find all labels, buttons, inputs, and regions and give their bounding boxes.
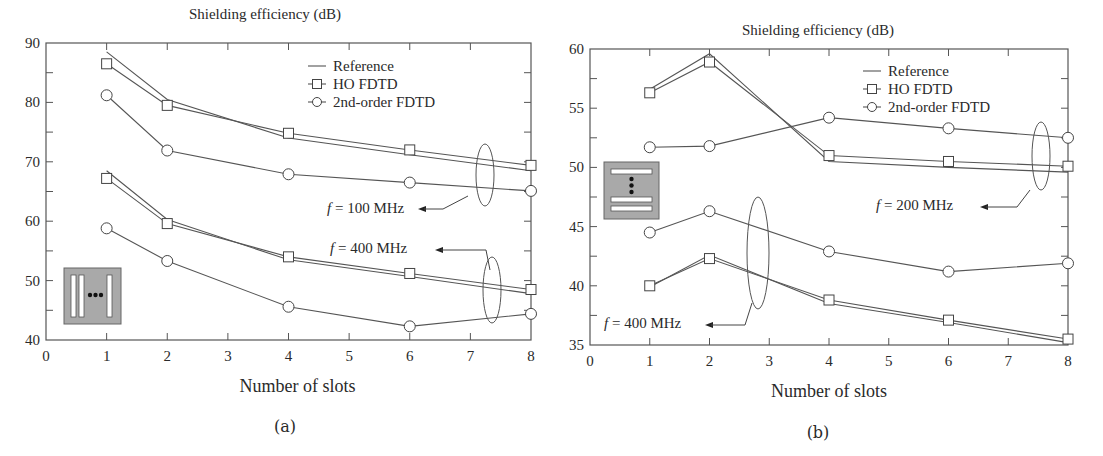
- y-tick-label: 45: [569, 219, 584, 235]
- series-2nd-order-fdtd: [644, 206, 1073, 277]
- circle-marker: [943, 266, 954, 277]
- x-tick-label: 2: [164, 348, 172, 364]
- square-marker: [526, 285, 536, 295]
- circle-marker: [526, 185, 537, 196]
- series-reference: [650, 54, 1068, 172]
- x-tick-label: 0: [586, 353, 594, 369]
- grouping-ellipse: [483, 257, 501, 323]
- circle-marker: [824, 246, 835, 257]
- legend-entry: Reference: [888, 63, 949, 79]
- grouping-ellipse: [747, 197, 769, 309]
- horizontal-slots-inset-icon: [604, 162, 659, 219]
- square-marker: [645, 281, 655, 291]
- legend-entry: HO FDTD: [333, 76, 398, 92]
- square-marker: [405, 145, 415, 155]
- frequency-annotation: f = 400 MHz: [330, 240, 501, 323]
- x-tick-label: 3: [766, 353, 774, 369]
- circle-marker: [1063, 132, 1074, 143]
- circle-marker: [404, 321, 415, 332]
- legend-entry: 2nd-order FDTD: [888, 99, 990, 115]
- square-marker: [1063, 161, 1073, 171]
- y-tick-label: 50: [25, 273, 40, 289]
- x-tick-label: 7: [1005, 353, 1013, 369]
- x-tick-label: 2: [706, 353, 714, 369]
- circle-marker: [283, 301, 294, 312]
- grouping-ellipse: [476, 144, 494, 206]
- circle-marker: [404, 177, 415, 188]
- legend-entry: Reference: [333, 58, 394, 74]
- vertical-slots-inset-icon: [64, 268, 121, 324]
- y-tick-label: 90: [25, 35, 40, 51]
- y-tick-label: 50: [569, 159, 584, 175]
- subfigure-caption: (a): [274, 417, 296, 436]
- y-tick-label: 60: [25, 213, 40, 229]
- circle-marker: [283, 169, 294, 180]
- x-tick-label: 6: [945, 353, 953, 369]
- legend: ReferenceHO FDTD2nd-order FDTD: [308, 58, 435, 110]
- square-marker: [1063, 334, 1073, 344]
- square-marker: [102, 173, 112, 183]
- x-tick-label: 0: [42, 348, 50, 364]
- x-tick-label: 7: [467, 348, 475, 364]
- square-marker: [102, 59, 112, 69]
- svg-text:f = 200 MHz: f = 200 MHz: [876, 197, 954, 213]
- circle-marker: [162, 255, 173, 266]
- x-tick-label: 8: [1064, 353, 1072, 369]
- x-tick-label: 3: [224, 348, 232, 364]
- square-marker-icon: [868, 85, 877, 94]
- svg-text:f = 400 MHz: f = 400 MHz: [330, 240, 408, 256]
- circle-marker: [704, 141, 715, 152]
- square-marker: [705, 57, 715, 67]
- square-marker: [944, 156, 954, 166]
- circle-marker: [824, 112, 835, 123]
- circle-marker: [101, 90, 112, 101]
- svg-text:f = 400 MHz: f = 400 MHz: [604, 315, 682, 331]
- circle-marker: [644, 142, 655, 153]
- square-marker: [162, 219, 172, 229]
- circle-marker-icon: [313, 98, 322, 107]
- x-axis-label: Number of slots: [240, 376, 356, 396]
- series-ho-fdtd: [645, 57, 1073, 171]
- y-tick-label: 40: [569, 278, 584, 294]
- y-tick-label: 70: [25, 154, 40, 170]
- circle-marker: [644, 227, 655, 238]
- svg-text:f = 100 MHz: f = 100 MHz: [327, 200, 405, 216]
- circle-marker-icon: [868, 103, 877, 112]
- subfigure-caption: (b): [807, 423, 830, 442]
- circle-marker: [704, 206, 715, 217]
- figure-canvas: Shielding efficiency (dB)012345678405060…: [0, 0, 1103, 456]
- y-tick-label: 80: [25, 94, 40, 110]
- x-tick-label: 4: [285, 348, 293, 364]
- x-tick-label: 5: [885, 353, 893, 369]
- series-reference: [107, 171, 531, 294]
- circle-marker: [101, 223, 112, 234]
- circle-marker: [162, 145, 173, 156]
- square-marker: [405, 268, 415, 278]
- legend: ReferenceHO FDTD2nd-order FDTD: [863, 63, 990, 115]
- grouping-ellipse: [1032, 122, 1050, 190]
- x-tick-label: 5: [345, 348, 353, 364]
- legend-entry: HO FDTD: [888, 81, 953, 97]
- x-tick-label: 1: [103, 348, 111, 364]
- chart-a: Shielding efficiency (dB)012345678405060…: [25, 6, 537, 436]
- y-tick-label: 40: [25, 332, 40, 348]
- circle-marker: [943, 123, 954, 134]
- square-marker: [824, 151, 834, 161]
- square-marker: [705, 254, 715, 264]
- series-ho-fdtd: [102, 173, 536, 294]
- square-marker: [162, 100, 172, 110]
- x-axis-label: Number of slots: [771, 381, 887, 401]
- series-2nd-order-fdtd: [101, 223, 536, 332]
- series-2nd-order-fdtd: [644, 112, 1073, 153]
- x-tick-label: 6: [406, 348, 414, 364]
- circle-marker: [1063, 258, 1074, 269]
- square-marker: [284, 128, 294, 138]
- chart-b: Shielding efficiency (dB)012345678354045…: [569, 22, 1074, 442]
- square-marker: [645, 88, 655, 98]
- y-tick-label: 60: [569, 41, 584, 57]
- legend-entry: 2nd-order FDTD: [333, 94, 435, 110]
- x-tick-label: 1: [646, 353, 654, 369]
- square-marker: [284, 252, 294, 262]
- y-tick-label: 55: [569, 100, 584, 116]
- square-marker-icon: [313, 80, 322, 89]
